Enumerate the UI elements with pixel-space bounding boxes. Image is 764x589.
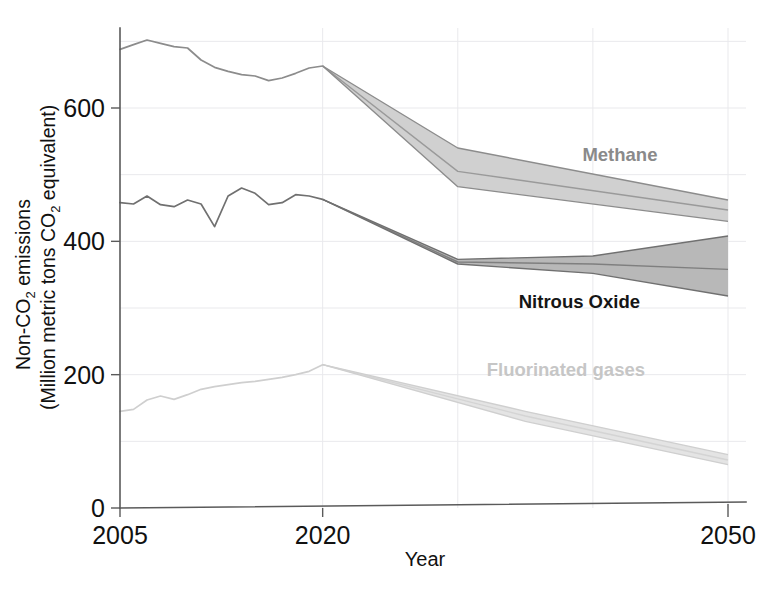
- x-axis-line: [120, 502, 746, 508]
- non-co2-emissions-chart: 0200400600200520202050 MethaneNitrous Ox…: [0, 0, 764, 589]
- chart-figure: 0200400600200520202050 MethaneNitrous Ox…: [0, 0, 764, 589]
- svg-text:(Million metric tons CO2 equiv: (Million metric tons CO2 equivalent): [37, 105, 63, 410]
- y-axis-tick-label: 0: [91, 494, 105, 522]
- series-history-line: [120, 188, 323, 227]
- series-history-line: [120, 40, 323, 81]
- y-axis-title-line1-tail: emissions: [12, 199, 34, 291]
- series-annotation-label: Methane: [582, 144, 657, 165]
- x-axis-title: Year: [405, 548, 446, 570]
- svg-text:Non-CO2 emissions: Non-CO2 emissions: [12, 199, 38, 370]
- series-annotation-label: Fluorinated gases: [487, 359, 645, 380]
- y-axis-tick-label: 600: [63, 94, 105, 122]
- series-bands-layer: [323, 66, 728, 465]
- y-axis-tick-label: 200: [63, 361, 105, 389]
- y-axis-title-line1-sub: 2: [23, 291, 38, 298]
- y-axis-title-line1-head: Non-CO: [12, 298, 34, 370]
- series-history-line: [120, 365, 323, 412]
- y-axis-title-line2-sub: 2: [48, 206, 63, 213]
- y-axis-title-line2-head: (Million metric tons CO: [37, 213, 59, 410]
- y-axis-title: Non-CO2 emissions (Million metric tons C…: [12, 105, 63, 410]
- y-axis-tick-label: 400: [63, 227, 105, 255]
- y-axis-title-line2-tail: equivalent): [37, 105, 59, 206]
- series-uncertainty-band: [323, 66, 728, 221]
- x-axis-tick-label: 2020: [295, 521, 351, 549]
- series-annotation-label: Nitrous Oxide: [519, 291, 640, 312]
- x-axis-tick-label: 2050: [700, 521, 756, 549]
- x-axis-tick-label: 2005: [92, 521, 148, 549]
